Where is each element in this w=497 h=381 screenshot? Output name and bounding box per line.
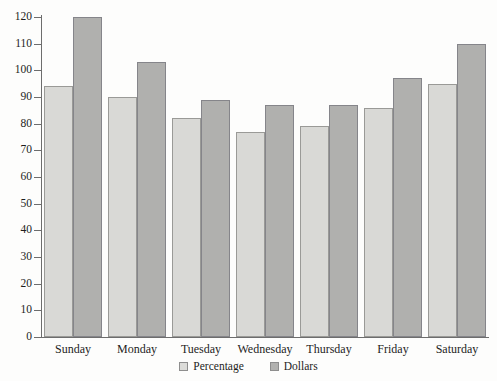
legend-item-percentage: Percentage	[179, 361, 243, 373]
y-axis-tick-label: 120	[0, 11, 32, 23]
x-axis-label-tuesday: Tuesday	[169, 343, 233, 356]
bar-thursday-dollars	[329, 105, 358, 337]
x-axis-line	[41, 337, 489, 338]
x-axis-label-saturday: Saturday	[425, 343, 489, 356]
bar-saturday-dollars	[457, 44, 486, 337]
x-axis-label-thursday: Thursday	[297, 343, 361, 356]
y-axis-tick	[34, 337, 41, 338]
bar-wednesday-dollars	[265, 105, 294, 337]
y-axis-tick-label: 110	[0, 38, 32, 50]
bar-tuesday-percentage	[172, 118, 201, 337]
y-axis-tick-label: 60	[0, 171, 32, 183]
plot-area	[41, 8, 489, 337]
bar-sunday-percentage	[44, 86, 73, 337]
bar-tuesday-dollars	[201, 100, 230, 337]
bar-wednesday-percentage	[236, 132, 265, 337]
y-axis-labels: 0102030405060708090100110120	[0, 0, 32, 381]
bar-friday-dollars	[393, 78, 422, 337]
y-axis-tick	[34, 44, 41, 45]
dollars-swatch-icon	[270, 362, 279, 371]
y-axis-tick	[34, 70, 41, 71]
y-axis-tick-label: 50	[0, 198, 32, 210]
y-axis-tick	[34, 230, 41, 231]
y-axis-tick-label: 40	[0, 224, 32, 236]
bar-monday-percentage	[108, 97, 137, 337]
bar-group	[428, 8, 486, 337]
legend-label: Dollars	[284, 361, 318, 373]
y-axis-tick-label: 10	[0, 304, 32, 316]
y-axis-tick-label: 70	[0, 144, 32, 156]
y-axis-tick	[34, 177, 41, 178]
y-axis-tick	[34, 204, 41, 205]
bar-friday-percentage	[364, 108, 393, 337]
y-axis-tick	[34, 310, 41, 311]
y-axis-tick	[34, 257, 41, 258]
y-axis-tick-label: 20	[0, 278, 32, 290]
y-axis-tick-label: 90	[0, 91, 32, 103]
y-axis-tick-label: 30	[0, 251, 32, 263]
bar-group	[236, 8, 294, 337]
y-axis-tick	[34, 124, 41, 125]
bar-group	[364, 8, 422, 337]
bar-sunday-dollars	[73, 17, 102, 337]
y-axis-tick-label: 80	[0, 118, 32, 130]
chart-legend: PercentageDollars	[0, 361, 497, 373]
bar-chart: 0102030405060708090100110120 SundayMonda…	[0, 0, 497, 381]
bar-thursday-percentage	[300, 126, 329, 337]
bar-monday-dollars	[137, 62, 166, 337]
y-axis-tick	[34, 97, 41, 98]
y-axis-tick	[34, 17, 41, 18]
bar-group	[108, 8, 166, 337]
x-axis-label-wednesday: Wednesday	[233, 343, 297, 356]
y-axis-tick	[34, 150, 41, 151]
x-axis-label-sunday: Sunday	[41, 343, 105, 356]
legend-item-dollars: Dollars	[270, 361, 318, 373]
legend-label: Percentage	[193, 361, 243, 373]
bar-group	[172, 8, 230, 337]
y-axis-tick-label: 0	[0, 331, 32, 343]
y-axis-tick-label: 100	[0, 64, 32, 76]
x-axis-label-monday: Monday	[105, 343, 169, 356]
bar-saturday-percentage	[428, 84, 457, 337]
x-axis-label-friday: Friday	[361, 343, 425, 356]
bar-group	[44, 8, 102, 337]
y-axis-tick	[34, 284, 41, 285]
percentage-swatch-icon	[179, 362, 188, 371]
bar-group	[300, 8, 358, 337]
